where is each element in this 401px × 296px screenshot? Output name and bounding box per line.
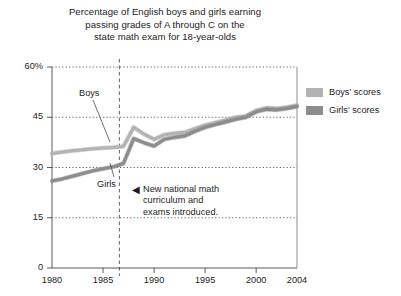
x-tick-label: 1990 <box>140 275 168 285</box>
data-series-group <box>52 105 297 181</box>
legend-swatch-boys <box>306 88 323 97</box>
annotation-line-3: exams introduced. <box>143 207 219 218</box>
y-tick-label: 15 <box>0 212 43 222</box>
legend-swatch-girls <box>306 106 323 115</box>
annotation-arrow-icon: ◀ <box>132 184 140 195</box>
x-tick-label: 1985 <box>89 275 117 285</box>
x-tick-label: 1995 <box>191 275 219 285</box>
x-tick-label: 1980 <box>38 275 66 285</box>
label-leader-lines <box>93 100 114 177</box>
x-tick-label: 2000 <box>242 275 270 285</box>
annotation-line-1: New national math <box>143 184 219 195</box>
chart-figure: Percentage of English boys and girls ear… <box>0 0 401 296</box>
y-tick-label: 45 <box>0 111 43 121</box>
legend-label-girls: Girls' scores <box>329 105 379 115</box>
chart-legend: Boys' scores Girls' scores <box>306 84 381 120</box>
y-tick-label: 30 <box>0 162 43 172</box>
x-tick-label: 2004 <box>283 275 311 285</box>
y-tick-label: 0 <box>0 262 43 272</box>
legend-label-boys: Boys' scores <box>329 87 381 97</box>
x-axis-ticks <box>103 268 256 273</box>
girls-label: Girls <box>97 179 116 189</box>
legend-item-boys: Boys' scores <box>306 84 381 100</box>
y-tick-label: 60% <box>0 61 43 71</box>
plot-canvas <box>0 0 401 296</box>
annotation-line-2: curriculum and <box>143 195 219 206</box>
y-axis-ticks <box>47 67 52 268</box>
legend-item-girls: Girls' scores <box>306 102 381 118</box>
boys-label: Boys <box>79 88 99 98</box>
new-curriculum-annotation: New national math curriculum and exams i… <box>143 184 219 218</box>
